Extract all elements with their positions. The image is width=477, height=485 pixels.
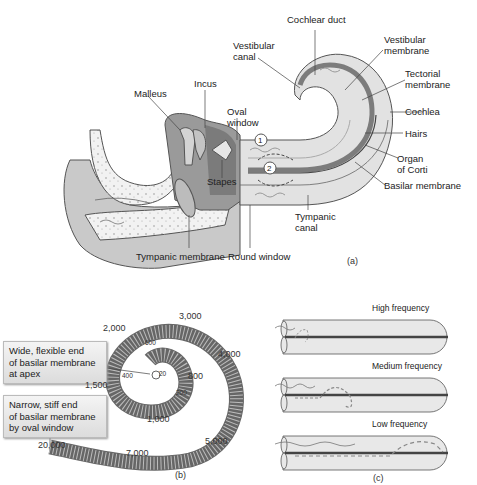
note-base: Narrow, stiff end of basilar membrane by… <box>3 395 107 438</box>
label-cochlea: Cochlea <box>405 106 440 117</box>
freq-20: 20 <box>159 370 166 377</box>
freq-1000: 1,000 <box>147 414 170 424</box>
title-high-frequency: High frequency <box>372 303 429 314</box>
label-oval-window: Oval window <box>227 106 259 128</box>
freq-3000: 3,000 <box>179 311 202 321</box>
tube-high <box>275 320 448 354</box>
label-malleus: Malleus <box>134 88 167 99</box>
freq-400: 400 <box>122 372 133 379</box>
label-basilar-membrane: Basilar membrane <box>384 180 461 191</box>
marker-1-label: 1 <box>258 135 262 146</box>
freq-4000: 4,000 <box>218 349 241 359</box>
freq-200: 200 <box>176 389 187 396</box>
label-tympanic-canal: Tympanic canal <box>295 211 336 233</box>
label-vestibular-membrane: Vestibular membrane <box>384 34 429 56</box>
label-vestibular-canal: Vestibular canal <box>233 40 275 62</box>
label-round-window: Round window <box>228 251 290 262</box>
freq-20000: 20,000 <box>38 440 66 450</box>
frequency-tubes <box>275 320 448 470</box>
label-cochlear-duct: Cochlear duct <box>287 14 346 25</box>
note-apex: Wide, flexible end of basilar membrane a… <box>3 341 107 384</box>
freq-2000: 2,000 <box>103 323 126 333</box>
tube-medium <box>275 378 448 412</box>
label-hairs: Hairs <box>405 128 427 139</box>
marker-2-label: 2 <box>267 163 271 174</box>
middle-ear <box>165 114 242 220</box>
freq-600: 600 <box>145 339 156 346</box>
caption-b: (b) <box>175 470 186 480</box>
freq-1500: 1,500 <box>85 380 108 390</box>
freq-800: 800 <box>188 371 203 381</box>
caption-c: (c) <box>373 473 384 483</box>
label-tympanic-membrane: Tympanic membrane <box>136 251 225 262</box>
title-medium-frequency: Medium frequency <box>372 361 442 372</box>
label-incus: Incus <box>194 78 217 89</box>
caption-a: (a) <box>347 256 358 266</box>
label-stapes: Stapes <box>207 176 237 187</box>
freq-7000: 7,000 <box>126 448 149 458</box>
label-tectorial-membrane: Tectorial membrane <box>405 68 450 90</box>
label-organ-of-corti: Organ of Corti <box>397 153 428 175</box>
freq-5000: 5,000 <box>205 436 228 446</box>
tube-low <box>275 436 448 470</box>
cochlea-spiral <box>240 54 393 205</box>
title-low-frequency: Low frequency <box>372 419 427 430</box>
